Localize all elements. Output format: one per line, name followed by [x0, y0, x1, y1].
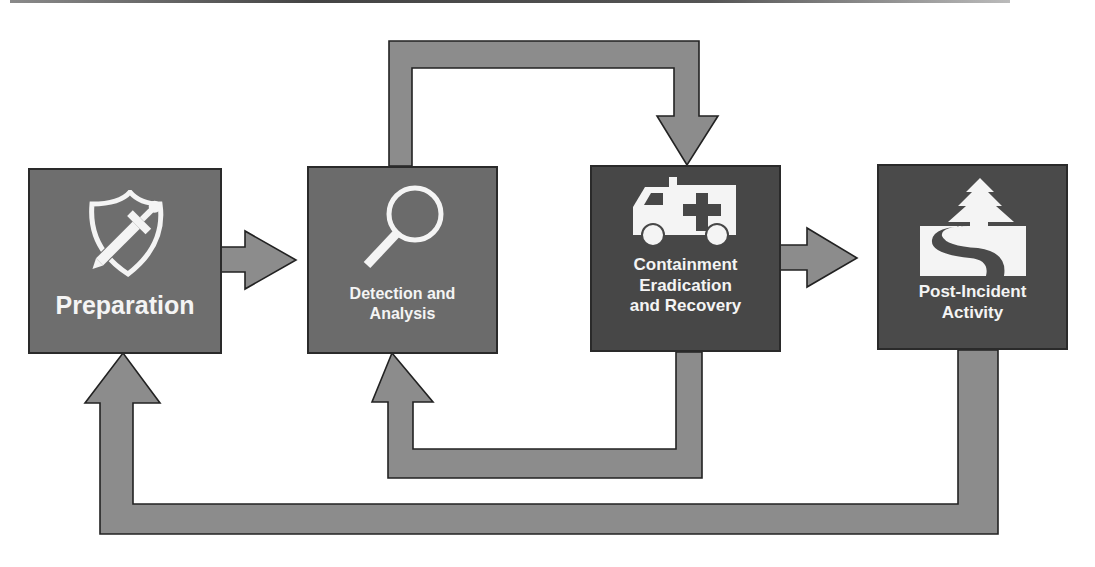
node-label: Preparation — [56, 290, 195, 321]
node-label: Post-Incident Activity — [919, 282, 1027, 323]
magnifying-glass-icon — [353, 180, 453, 280]
node-preparation[interactable]: Preparation — [28, 168, 222, 354]
arrow-post-to-preparation — [85, 350, 998, 534]
ambulance-icon — [631, 175, 741, 247]
arrow-prep-to-detection — [221, 231, 296, 289]
arrow-containment-to-detection — [372, 352, 702, 478]
node-label: Containment Eradication and Recovery — [630, 255, 742, 317]
tree-river-icon — [918, 178, 1028, 278]
node-post-incident-activity[interactable]: Post-Incident Activity — [877, 164, 1068, 350]
node-detection-analysis[interactable]: Detection and Analysis — [307, 166, 498, 354]
node-containment-eradication-recovery[interactable]: Containment Eradication and Recovery — [590, 165, 781, 352]
arrow-detection-to-containment — [389, 41, 718, 166]
arrow-containment-to-post — [780, 228, 857, 287]
shield-sword-icon — [80, 190, 170, 280]
node-label: Detection and Analysis — [350, 284, 456, 323]
